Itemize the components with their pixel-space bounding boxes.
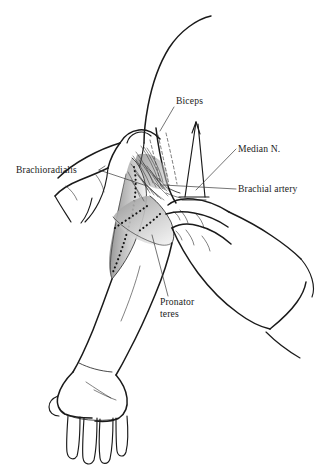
- leader-biceps: [160, 107, 174, 131]
- anatomical-figure: Biceps Median N. Brachial artery Brachio…: [0, 0, 329, 471]
- examiner-right-hand: [166, 199, 314, 358]
- nail-mark-1: [174, 212, 180, 220]
- finger-crease-4: [202, 236, 210, 251]
- dorsal-tendon-2: [94, 390, 116, 400]
- anatomy-illustration: Biceps Median N. Brachial artery Brachio…: [0, 0, 329, 471]
- label-pronator-teres-line1: Pronator: [160, 296, 195, 307]
- label-median-nerve: Median N.: [238, 143, 280, 154]
- patient-hand: [49, 363, 128, 464]
- examiner-left-crease-1: [96, 175, 104, 192]
- knuckle-line: [64, 414, 118, 420]
- label-pronator-teres-line2: teres: [160, 308, 179, 319]
- leader-brachial-artery: [163, 185, 236, 189]
- examiner-left-crease-2: [66, 186, 77, 200]
- examiner-cuff: [266, 332, 300, 358]
- label-biceps: Biceps: [176, 95, 203, 106]
- dorsal-tendon-1: [86, 382, 111, 398]
- wrist-crease: [79, 363, 112, 372]
- label-brachial-artery: Brachial artery: [238, 183, 298, 194]
- label-brachioradialis: Brachioradialis: [16, 164, 77, 175]
- finger-crease-3: [186, 230, 194, 245]
- biceps-tendon-retractor: [179, 122, 209, 200]
- fingers: [67, 416, 128, 464]
